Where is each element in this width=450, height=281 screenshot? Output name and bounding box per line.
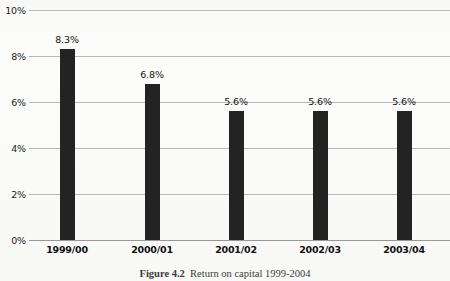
x-axis-label-1999-00: 1999/00 xyxy=(35,244,99,255)
bar-value-2002-03: 5.6% xyxy=(297,96,343,107)
bar-2001-02 xyxy=(229,111,244,240)
bar-value-2001-02: 5.6% xyxy=(213,96,259,107)
x-axis-label-2000-01: 2000/01 xyxy=(120,244,184,255)
bar-value-2000-01: 6.8% xyxy=(129,69,175,80)
axis-line-zero xyxy=(29,240,450,241)
bar-2003-04 xyxy=(397,111,412,240)
x-axis-label-2003-04: 2003/04 xyxy=(372,244,436,255)
x-axis-label-2001-02: 2001/02 xyxy=(204,244,268,255)
bar-value-2003-04: 5.6% xyxy=(381,96,427,107)
y-axis-label-2: 2% xyxy=(0,189,26,200)
x-axis-label-2002-03: 2002/03 xyxy=(288,244,352,255)
y-axis-label-8: 8% xyxy=(0,51,26,62)
gridline-10 xyxy=(29,10,450,11)
bar-2002-03 xyxy=(313,111,328,240)
y-axis-label-10: 10% xyxy=(0,5,26,16)
gridline-8 xyxy=(29,56,450,57)
bar-chart: 10% 8% 6% 4% 2% 0% 8.3% 6.8% 5.6% 5.6% 5… xyxy=(0,0,450,252)
y-axis-label-4: 4% xyxy=(0,143,26,154)
figure-page: 10% 8% 6% 4% 2% 0% 8.3% 6.8% 5.6% 5.6% 5… xyxy=(0,0,450,281)
bar-2000-01 xyxy=(145,84,160,240)
figure-caption-text: Return on capital 1999-2004 xyxy=(190,268,310,279)
bar-1999-00 xyxy=(60,49,75,240)
bar-value-1999-00: 8.3% xyxy=(44,34,90,45)
y-axis-label-0: 0% xyxy=(0,235,26,246)
y-axis-label-6: 6% xyxy=(0,97,26,108)
figure-caption-label: Figure 4.2 xyxy=(140,268,185,279)
figure-caption: Figure 4.2 Return on capital 1999-2004 xyxy=(0,268,450,279)
